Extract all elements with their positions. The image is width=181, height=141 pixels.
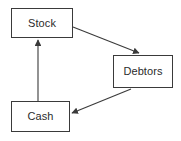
node-stock[interactable]: Stock	[11, 8, 73, 38]
node-debtors-label: Debtors	[123, 66, 162, 77]
node-cash[interactable]: Cash	[11, 101, 70, 132]
edge-debtors-to-cash-line	[72, 89, 131, 113]
diagram-canvas: Stock Debtors Cash	[0, 0, 181, 141]
edge-debtors-to-cash	[72, 89, 131, 113]
edge-stock-to-debtors-line	[73, 27, 139, 53]
node-cash-label: Cash	[27, 111, 53, 122]
node-stock-label: Stock	[28, 18, 56, 29]
node-debtors[interactable]: Debtors	[113, 55, 173, 88]
edge-stock-to-debtors	[73, 27, 139, 53]
